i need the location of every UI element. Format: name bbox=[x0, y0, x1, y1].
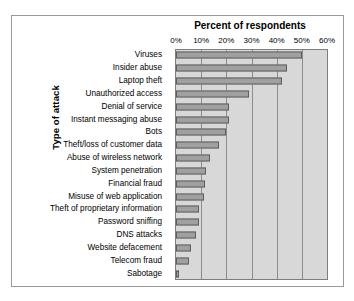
category-label: Telecom fraud bbox=[111, 257, 162, 265]
category-label: Instant messaging abuse bbox=[71, 115, 162, 123]
category-label: Sabotage bbox=[127, 269, 162, 277]
bar-row: Misuse of web application bbox=[12, 190, 343, 203]
bar-row: Viruses bbox=[12, 49, 343, 62]
bar-row: DNS attacks bbox=[12, 229, 343, 242]
category-label: Laptop theft bbox=[119, 77, 162, 85]
bar bbox=[176, 52, 302, 59]
category-label: Financial fraud bbox=[108, 180, 162, 188]
bar bbox=[176, 232, 196, 239]
bar bbox=[176, 244, 191, 251]
category-label: Viruses bbox=[135, 51, 162, 59]
bar-row: Theft/loss of customer data bbox=[12, 139, 343, 152]
bar-row: Sabotage bbox=[12, 267, 343, 280]
bar-row: Telecom fraud bbox=[12, 254, 343, 267]
bar bbox=[176, 167, 206, 174]
bar-row: Laptop theft bbox=[12, 75, 343, 88]
bar bbox=[176, 219, 199, 226]
category-label: Bots bbox=[146, 128, 162, 136]
bar bbox=[176, 129, 226, 136]
bar-row: Insider abuse bbox=[12, 62, 343, 75]
chart-title: Percent of respondents bbox=[162, 20, 338, 31]
bar bbox=[176, 65, 287, 72]
x-axis-tick-labels: 0%10%20%30%40%50%60% bbox=[12, 36, 343, 48]
category-label: Misuse of web application bbox=[68, 192, 162, 200]
bar-row: Unauthorized access bbox=[12, 88, 343, 101]
bar-row: Denial of service bbox=[12, 100, 343, 113]
bar-row: Financial fraud bbox=[12, 177, 343, 190]
bar-row: Abuse of wireless network bbox=[12, 152, 343, 165]
bar-row: Bots bbox=[12, 126, 343, 139]
bar-row: Instant messaging abuse bbox=[12, 113, 343, 126]
bar-row: Password sniffing bbox=[12, 216, 343, 229]
x-tick-label-30: 30% bbox=[239, 36, 265, 45]
x-tick-label-60: 60% bbox=[314, 36, 340, 45]
category-label: Abuse of wireless network bbox=[67, 154, 162, 162]
x-tick-label-10: 10% bbox=[188, 36, 214, 45]
bar bbox=[176, 206, 199, 213]
bar bbox=[176, 155, 210, 162]
category-label: Website defacement bbox=[88, 244, 163, 252]
category-label: Insider abuse bbox=[113, 64, 162, 72]
category-label: Denial of service bbox=[101, 103, 162, 111]
x-tick-label-0: 0% bbox=[163, 36, 189, 45]
category-label: Theft of proprietary information bbox=[50, 205, 162, 213]
category-label: Unauthorized access bbox=[86, 90, 162, 98]
bar-row: Theft of proprietary information bbox=[12, 203, 343, 216]
bar bbox=[176, 103, 229, 110]
bar bbox=[176, 78, 282, 85]
bar-rows: VirusesInsider abuseLaptop theftUnauthor… bbox=[12, 49, 343, 280]
bar bbox=[176, 193, 204, 200]
bar-row: System penetration bbox=[12, 165, 343, 178]
bar bbox=[176, 180, 205, 187]
bar bbox=[176, 257, 189, 264]
category-label: Password sniffing bbox=[98, 218, 162, 226]
bar-row: Website defacement bbox=[12, 242, 343, 255]
x-tick-label-20: 20% bbox=[213, 36, 239, 45]
chart-frame: Percent of respondents Type of attack 0%… bbox=[11, 15, 344, 287]
x-tick-label-40: 40% bbox=[264, 36, 290, 45]
x-tick-label-50: 50% bbox=[289, 36, 315, 45]
bar bbox=[176, 116, 229, 123]
category-label: DNS attacks bbox=[117, 231, 163, 239]
bar bbox=[176, 142, 219, 149]
category-label: System penetration bbox=[91, 167, 162, 175]
bar bbox=[176, 90, 249, 97]
category-label: Theft/loss of customer data bbox=[63, 141, 162, 149]
bar bbox=[176, 270, 179, 277]
